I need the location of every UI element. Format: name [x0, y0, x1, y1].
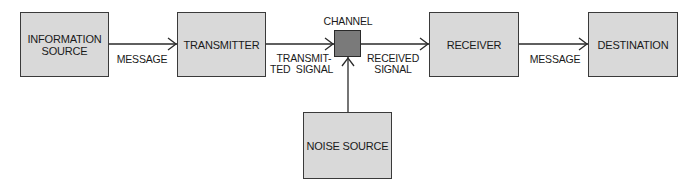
transmitted-signal-line2: TED SIGNAL [270, 64, 332, 75]
channel-label: CHANNEL [318, 16, 378, 27]
channel-box [334, 30, 361, 57]
message-label-1: MESSAGE [112, 54, 172, 65]
message-label-2: MESSAGE [525, 54, 585, 65]
transmitter-label: TRANSMITTER [183, 39, 259, 51]
information-source-label-line2: SOURCE [28, 45, 102, 57]
receiver-box: RECEIVER [429, 12, 519, 77]
destination-box: DESTINATION [588, 12, 678, 77]
transmitter-box: TRANSMITTER [177, 12, 266, 77]
received-signal-label: RECEIVED SIGNAL [364, 53, 422, 75]
information-source-label-line1: INFORMATION [28, 33, 102, 45]
noise-source-label: NOISE SOURCE [307, 140, 389, 152]
noise-source-box: NOISE SOURCE [303, 112, 392, 179]
destination-label: DESTINATION [598, 39, 669, 51]
information-source-box: INFORMATION SOURCE [20, 12, 109, 77]
transmitted-signal-label: TRANSMIT- TED SIGNAL [270, 53, 332, 75]
received-signal-line2: SIGNAL [364, 64, 422, 75]
receiver-label: RECEIVER [447, 39, 502, 51]
